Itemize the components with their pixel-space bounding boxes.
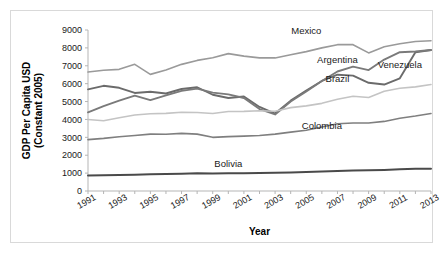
series-label-bolivia: Bolivia	[214, 158, 243, 169]
chart-figure: 9000800070006000500040003000200010000199…	[0, 0, 447, 257]
series-label-brazil: Brazil	[326, 73, 350, 84]
y-tick-label: 7000	[62, 61, 82, 71]
y-axis-title: GDP Per Capita USD(Constant 2005)	[21, 62, 44, 160]
x-tick-label: 2009	[356, 192, 378, 211]
x-tick-label: 2005	[294, 192, 316, 211]
y-tick-label: 2000	[62, 150, 82, 160]
y-axis-title-line: (Constant 2005)	[33, 73, 44, 148]
y-tick-label: 9000	[62, 25, 82, 35]
x-tick-label: 1993	[107, 192, 129, 211]
x-tick-label: 2011	[387, 192, 409, 210]
y-tick-label: 3000	[62, 133, 82, 143]
series-label-mexico: Mexico	[291, 25, 321, 36]
line-chart: 9000800070006000500040003000200010000199…	[0, 0, 447, 257]
x-tick-label: 2007	[325, 192, 347, 211]
series-line-brazil	[88, 85, 431, 121]
series-label-argentina: Argentina	[317, 54, 358, 65]
series-label-venezuela: Venezuela	[378, 59, 423, 70]
series-line-bolivia	[88, 169, 431, 176]
y-axis-title-line: GDP Per Capita USD	[21, 62, 32, 160]
series-label-colombia: Colombia	[302, 120, 343, 131]
y-tick-label: 8000	[62, 43, 82, 53]
y-tick-label: 1000	[62, 168, 82, 178]
x-tick-label: 2003	[262, 192, 284, 211]
x-tick-label: 1999	[200, 192, 222, 211]
x-axis-title: Year	[249, 226, 270, 237]
y-tick-label: 5000	[62, 97, 82, 107]
series-line-colombia	[88, 114, 431, 140]
y-tick-label: 0	[77, 186, 82, 196]
y-tick-label: 6000	[62, 79, 82, 89]
y-tick-label: 4000	[62, 115, 82, 125]
x-tick-label: 1995	[138, 192, 160, 211]
x-tick-label: 2013	[418, 192, 440, 211]
x-tick-label: 1997	[169, 192, 191, 211]
x-tick-label: 2001	[231, 192, 253, 211]
